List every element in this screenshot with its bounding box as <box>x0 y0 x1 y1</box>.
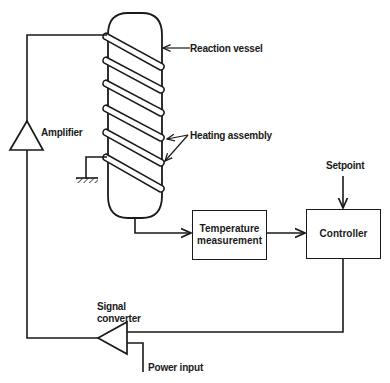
controller-to-converter-line <box>127 258 343 332</box>
controller-label: Controller <box>320 228 368 240</box>
amplifier-wiring <box>27 35 107 338</box>
heating-assembly-label: Heating assembly <box>190 130 272 142</box>
temperature-measurement-line2: measurement <box>197 235 262 247</box>
temperature-measurement-line1: Temperature <box>197 223 262 235</box>
power-input-line <box>127 343 143 372</box>
signal-converter-symbol <box>98 322 127 354</box>
amplifier-symbol <box>10 121 43 150</box>
reaction-vessel-label: Reaction vessel <box>190 43 263 55</box>
setpoint-label: Setpoint <box>326 160 364 172</box>
temperature-measurement-block: Temperature measurement <box>192 210 267 260</box>
power-input-label: Power input <box>148 362 203 374</box>
diagram-canvas <box>0 0 390 383</box>
controller-block: Controller <box>306 209 381 259</box>
vessel-to-measurement-line <box>135 218 191 233</box>
callout-arrows <box>163 48 190 161</box>
signal-converter-label-line1: Signal <box>97 301 126 313</box>
amplifier-label: Amplifier <box>41 127 83 139</box>
signal-converter-label-line2: converter <box>97 313 141 325</box>
ground-symbol <box>76 157 107 183</box>
